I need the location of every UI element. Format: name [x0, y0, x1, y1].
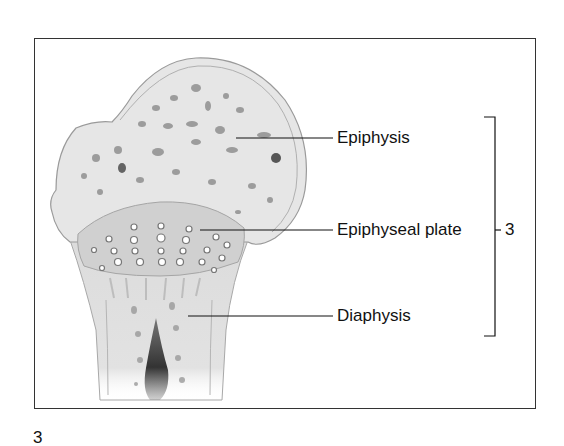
diaphysis-label: Diaphysis — [337, 307, 411, 324]
bracket — [484, 117, 495, 336]
bone-illustration — [0, 0, 564, 446]
epiphysis-label: Epiphysis — [337, 129, 410, 146]
figure-number: 3 — [33, 429, 42, 446]
epiphyseal-plate-label: Epiphyseal plate — [337, 221, 462, 238]
bracket-number-label: 3 — [505, 221, 514, 238]
